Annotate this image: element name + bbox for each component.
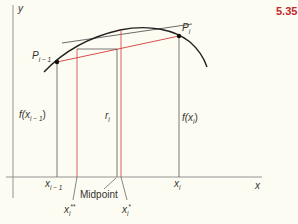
leader-x-i-double-star [73,177,77,200]
tangent-line [62,24,192,43]
midpoint-label: Midpoint [80,190,118,200]
leader-x-i-star [121,177,127,200]
figure-number: 5.35 [276,5,297,17]
tick-label-x-i: xi [174,179,180,189]
label-x-i-star: xi* [122,205,131,215]
x-axis-label: x [255,181,260,191]
label-f-x-i: f(xi) [182,113,198,123]
label-x-i-double-star: xi** [64,205,76,215]
tick-label-x-i-minus-1: xi − 1 [45,179,62,189]
leader-midpoint [104,178,116,189]
point-p-i-minus-1 [55,60,59,64]
label-r-i: ri [105,111,110,121]
function-curve [44,28,207,72]
label-f-x-i-minus-1: f(xi − 1) [19,110,46,120]
point-p-i [177,34,181,38]
secant-chord [57,36,179,62]
label-p-i: Pi [182,23,190,33]
label-p-i-minus-1: Pi − 1 [32,51,51,61]
y-axis-label: y [18,4,23,14]
